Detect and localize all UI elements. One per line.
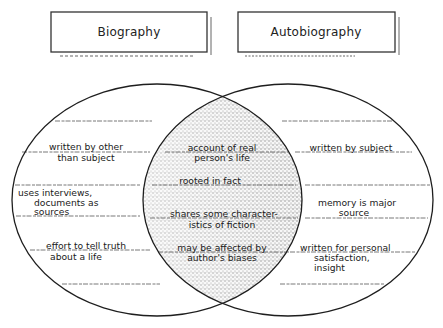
svg-text:insight: insight (314, 262, 345, 273)
svg-text:effort to tell truth: effort to tell truth (46, 240, 126, 251)
overlap-item: may be affected by author's biases (177, 242, 267, 263)
autobiography-title: Autobiography (271, 25, 362, 39)
svg-text:person's life: person's life (194, 152, 250, 163)
biography-item: uses interviews, documents as sources (18, 187, 99, 217)
svg-text:istics of fiction: istics of fiction (189, 219, 256, 230)
overlap-item: account of real person's life (188, 142, 257, 163)
autobiography-items: written by subject memory is major sourc… (300, 142, 396, 273)
autobiography-item: written for personal satisfaction, insig… (300, 242, 391, 273)
biography-items: written by other than subject uses inter… (18, 141, 126, 262)
svg-text:source: source (339, 207, 370, 218)
svg-text:about a life: about a life (50, 251, 102, 262)
autobiography-item: memory is major source (318, 197, 396, 218)
biography-item: written by other than subject (49, 141, 123, 163)
autobiography-title-box: Autobiography (238, 12, 399, 56)
biography-item: effort to tell truth about a life (46, 240, 126, 262)
venn-diagram: Biography Autobiography (0, 0, 443, 328)
svg-text:sources: sources (34, 206, 70, 217)
svg-text:written by other: written by other (49, 141, 123, 152)
overlap-item: rooted in fact (179, 175, 241, 186)
svg-text:author's biases: author's biases (187, 252, 257, 263)
svg-text:shares some character-: shares some character- (170, 208, 278, 219)
autobiography-item: written by subject (310, 142, 393, 153)
svg-text:written by subject: written by subject (310, 142, 393, 153)
svg-text:rooted in fact: rooted in fact (179, 175, 241, 186)
biography-title: Biography (98, 25, 161, 39)
svg-text:than subject: than subject (57, 152, 114, 163)
biography-title-box: Biography (51, 12, 211, 56)
